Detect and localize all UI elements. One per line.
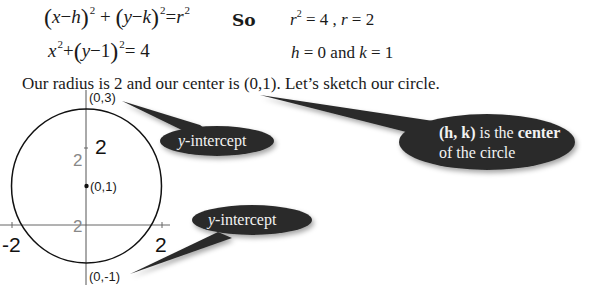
intercept-text: -intercept [185, 132, 247, 150]
radius-label-vertical: 2 [95, 135, 107, 158]
gray-label-upper: 2 [73, 151, 82, 170]
hk-bold: (h, k) [439, 124, 475, 142]
intercept-text: -intercept [215, 211, 277, 229]
radius-label-right: 2 [155, 233, 167, 256]
bottom-intercept-label: y-intercept [206, 211, 277, 229]
top-point-label: (0,3) [89, 90, 116, 105]
bottom-point-label: (0,-1) [89, 269, 120, 284]
center-callout-line1: (h, k) is the center [439, 124, 560, 142]
center-point [84, 184, 88, 188]
x-axis-label-left: -2 [2, 233, 21, 256]
callout-text: is the [475, 124, 517, 141]
center-point-label: (0,1) [90, 179, 117, 194]
top-intercept-label: y-intercept [176, 132, 247, 150]
center-callout-line2: of the circle [439, 144, 515, 161]
circle-graph: (0,3) (0,1) (0,-1) 2 2 2 2 -2 y-intercep… [0, 0, 614, 294]
center-bold: center [518, 124, 561, 141]
gray-label-lower: 2 [73, 217, 82, 236]
